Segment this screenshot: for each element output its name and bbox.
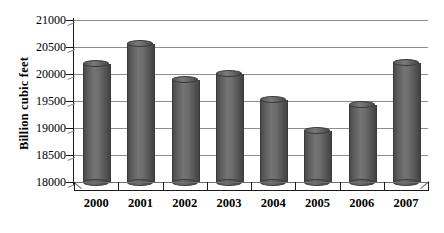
y-axis-tick-label: 20500	[12, 41, 66, 53]
bar	[83, 64, 111, 182]
bar-top-cap	[304, 127, 330, 134]
x-axis-tick	[74, 182, 75, 191]
x-axis-tick-label: 2007	[381, 196, 431, 211]
y-axis-tick-label: 20000	[12, 68, 66, 80]
bar	[127, 44, 155, 182]
x-axis-tick-label: 2004	[248, 196, 298, 211]
bar-top-cap	[260, 96, 286, 103]
x-axis-tick-label: 2000	[71, 196, 121, 211]
y-axis-tick-label: 18500	[12, 149, 66, 161]
x-axis-tick-label: 2003	[204, 196, 254, 211]
y-axis-tick	[66, 47, 74, 48]
x-axis-tick-label: 2005	[292, 196, 342, 211]
y-axis-tick-label: 18000	[12, 176, 66, 188]
bar-top-cap	[393, 59, 419, 66]
bar	[260, 100, 288, 182]
x-axis-left-edge	[74, 182, 83, 191]
x-axis-tick	[295, 182, 296, 191]
y-axis-tick	[66, 74, 74, 75]
y-axis-tick-label: 19000	[12, 122, 66, 134]
y-axis-tick	[66, 101, 74, 102]
bar	[304, 131, 332, 182]
x-axis-tick	[118, 182, 119, 191]
x-axis-tick-label: 2002	[160, 196, 210, 211]
bar	[393, 63, 421, 182]
x-axis-tick-labels: 20002001200220032004200520062007	[74, 196, 428, 216]
bar	[349, 105, 377, 182]
y-axis-tick	[66, 182, 74, 183]
bars-layer	[74, 20, 428, 186]
y-axis-tick-labels: 21000205002000019500190001850018000	[8, 0, 66, 233]
x-axis-tick	[207, 182, 208, 191]
x-axis-right-edge	[419, 182, 428, 191]
x-axis-floor	[74, 182, 428, 191]
x-axis-tick	[163, 182, 164, 191]
bar-chart: Billion cubic feet 210002050020000195001…	[0, 0, 444, 233]
y-axis-tick-label: 21000	[12, 14, 66, 26]
y-axis-tick	[66, 128, 74, 129]
bar	[172, 80, 200, 182]
bar-top-cap	[127, 40, 153, 47]
x-axis-tick	[340, 182, 341, 191]
bar	[216, 74, 244, 182]
y-axis-tick-label: 19500	[12, 95, 66, 107]
x-axis-tick	[251, 182, 252, 191]
x-axis-tick	[384, 182, 385, 191]
bar-top-cap	[349, 101, 375, 108]
y-axis-tick	[66, 20, 74, 21]
y-axis-tick	[66, 155, 74, 156]
x-axis-tick	[428, 182, 429, 191]
x-axis-tick-label: 2001	[115, 196, 165, 211]
bar-top-cap	[83, 60, 109, 67]
x-axis-tick-label: 2006	[337, 196, 387, 211]
bar-top-cap	[216, 70, 242, 77]
bar-top-cap	[172, 76, 198, 83]
